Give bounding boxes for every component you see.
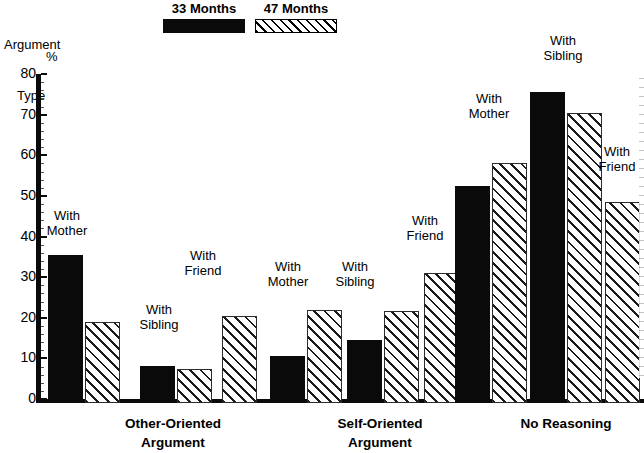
y-minor-tick [41, 90, 44, 91]
plot-area: 01020304050607080 WithMotherWithSiblingW… [36, 74, 644, 407]
y-axis-unit-label: % [46, 50, 58, 63]
bar [140, 366, 175, 403]
bar [177, 369, 212, 403]
bar [605, 202, 640, 403]
y-tick-label-0: 0 [28, 391, 36, 405]
y-minor-tick [41, 293, 44, 294]
y-minor-tick [41, 188, 44, 189]
bar-pair-label-line: With [407, 213, 444, 228]
bar [222, 316, 257, 403]
y-minor-tick [41, 310, 44, 311]
category-label-1: Other-OrientedArgument [125, 414, 221, 452]
y-minor-tick [41, 350, 44, 351]
bar-pair-label-line: Friend [185, 263, 222, 278]
y-minor-tick [41, 245, 44, 246]
y-minor-tick [41, 334, 44, 335]
legend-entry-33-months: 33 Months [163, 2, 245, 33]
bar-pair-label: WithSibling [543, 33, 582, 63]
bar-pair-label: WithSibling [335, 259, 374, 289]
bar [307, 310, 342, 403]
y-minor-tick [41, 261, 44, 262]
y-minor-tick [41, 147, 44, 148]
y-tick-label-40: 40 [20, 229, 36, 243]
bar-pair-label-line: With [599, 144, 636, 159]
bar [85, 322, 120, 403]
bar-pair-label-line: Friend [407, 228, 444, 243]
category-label-line: Other-Oriented [125, 414, 221, 433]
bar [455, 186, 490, 403]
bar [530, 92, 565, 403]
y-minor-tick [41, 375, 44, 376]
bar-pair-label: WithFriend [185, 248, 222, 278]
y-minor-tick [41, 253, 44, 254]
category-label-line: No Reasoning [521, 414, 612, 433]
y-tick-label-20: 20 [20, 310, 36, 324]
bar-pair-label: WithMother [47, 208, 87, 238]
bar-pair-label-line: With [47, 208, 87, 223]
page-edge-artifact [639, 78, 644, 378]
category-label-3: No Reasoning [521, 414, 612, 433]
bar [48, 255, 83, 403]
bar-pair-label-line: Sibling [335, 274, 374, 289]
y-minor-tick [41, 107, 44, 108]
y-tick-label-70: 70 [20, 107, 36, 121]
bar [424, 273, 459, 403]
y-tick-30: 30 [41, 276, 47, 278]
y-tick-50: 50 [41, 195, 47, 197]
y-minor-tick [41, 367, 44, 368]
bar-pair-label-line: With [139, 302, 178, 317]
y-tick-20: 20 [41, 317, 47, 319]
bar-pair-label: WithSibling [139, 302, 178, 332]
y-tick-label-50: 50 [20, 188, 36, 202]
y-minor-tick [41, 123, 44, 124]
legend-swatch-solid-icon [163, 19, 245, 33]
y-tick-label-10: 10 [20, 350, 36, 364]
legend-swatch-hatch-icon [255, 19, 337, 33]
bar-pair-label-line: Friend [599, 159, 636, 174]
bar-pair-label: WithMother [268, 259, 308, 289]
category-label-line: Self-Oriented [338, 414, 423, 433]
category-label-2: Self-OrientedArgument [338, 414, 423, 452]
y-tick-label-60: 60 [20, 147, 36, 161]
bar-pair-label-line: With [268, 259, 308, 274]
bar [347, 340, 382, 403]
y-minor-tick [41, 302, 44, 303]
bar-chart: Argument Type 33 Months 47 Months % 0102… [0, 0, 644, 453]
bar [384, 311, 419, 403]
bar-pair-label: WithFriend [407, 213, 444, 243]
bar-pair-label-line: With [185, 248, 222, 263]
y-minor-tick [41, 131, 44, 132]
category-label-line: Argument [338, 433, 423, 452]
y-minor-tick [41, 139, 44, 140]
y-tick-0: 0 [41, 398, 47, 400]
legend-label-47-months: 47 Months [264, 2, 328, 16]
bar-pair-label-line: With [543, 33, 582, 48]
bar-pair-label-line: Mother [268, 274, 308, 289]
chart-legend: 33 Months 47 Months [163, 2, 337, 33]
bar-pair-label: WithFriend [599, 144, 636, 174]
bar-pair-label-line: Mother [47, 223, 87, 238]
y-minor-tick [41, 220, 44, 221]
y-minor-tick [41, 163, 44, 164]
y-minor-tick [41, 82, 44, 83]
y-minor-tick [41, 98, 44, 99]
y-minor-tick [41, 326, 44, 327]
legend-entry-47-months: 47 Months [255, 2, 337, 33]
y-tick-60: 60 [41, 154, 47, 156]
bar-pair-label-line: With [469, 91, 509, 106]
y-minor-tick [41, 269, 44, 270]
y-tick-label-30: 30 [20, 269, 36, 283]
y-minor-tick [41, 180, 44, 181]
y-minor-tick [41, 204, 44, 205]
bar-pair-label: WithMother [469, 91, 509, 121]
bar [567, 113, 602, 403]
bar-pair-label-line: With [335, 259, 374, 274]
y-minor-tick [41, 228, 44, 229]
y-tick-10: 10 [41, 357, 47, 359]
y-minor-tick [41, 383, 44, 384]
category-label-line: Argument [125, 433, 221, 452]
bar [492, 163, 527, 403]
y-tick-70: 70 [41, 114, 47, 116]
legend-label-33-months: 33 Months [172, 2, 236, 16]
bar [270, 356, 305, 403]
